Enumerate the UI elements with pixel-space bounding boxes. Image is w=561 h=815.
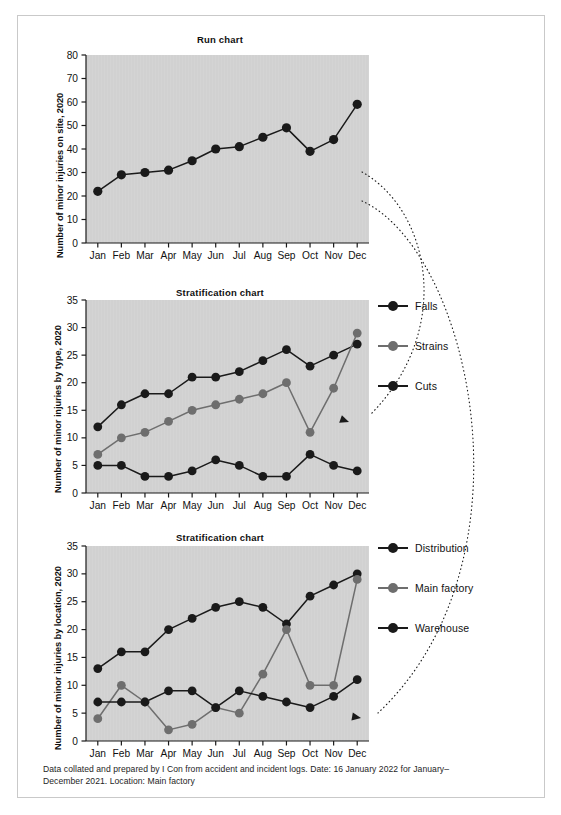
svg-text:20: 20 <box>67 191 79 202</box>
legend-label-warehouse: Warehouse <box>415 622 469 634</box>
svg-text:30: 30 <box>67 568 79 579</box>
svg-text:Jul: Jul <box>233 500 246 511</box>
legend-label-strains: Strains <box>415 340 448 352</box>
svg-text:Sep: Sep <box>277 500 295 511</box>
legend-label-main-factory: Main factory <box>415 582 473 594</box>
legend-label-falls: Falls <box>415 300 438 312</box>
svg-text:Sep: Sep <box>277 748 295 759</box>
svg-text:15: 15 <box>67 405 79 416</box>
chart-run-chart: Run chart Number of minor injuries on si… <box>0 0 400 285</box>
svg-text:70: 70 <box>67 73 79 84</box>
svg-text:0: 0 <box>72 736 78 747</box>
svg-text:Apr: Apr <box>161 500 177 511</box>
svg-text:May: May <box>183 748 203 759</box>
svg-text:Oct: Oct <box>302 500 318 511</box>
svg-text:Sep: Sep <box>277 250 295 261</box>
svg-text:10: 10 <box>67 432 79 443</box>
svg-text:Jun: Jun <box>207 250 223 261</box>
svg-text:Dec: Dec <box>348 500 366 511</box>
svg-text:May: May <box>183 500 203 511</box>
svg-text:Aug: Aug <box>254 748 272 759</box>
plot-area-stratification-by-type: 05101520253035JanFebMarAprMayJunJulAugSe… <box>0 285 400 525</box>
legend-item-warehouse[interactable]: Warehouse <box>378 618 473 638</box>
svg-text:25: 25 <box>67 596 79 607</box>
svg-text:20: 20 <box>67 624 79 635</box>
svg-text:0: 0 <box>72 238 78 249</box>
figure-page: Run chart Number of minor injuries on si… <box>0 0 561 815</box>
svg-text:Aug: Aug <box>254 500 272 511</box>
svg-text:60: 60 <box>67 97 79 108</box>
svg-text:0: 0 <box>72 488 78 499</box>
svg-text:Dec: Dec <box>348 250 366 261</box>
legend-marker-strains <box>378 340 408 352</box>
plot-area-stratification-by-location: 05101520253035JanFebMarAprMayJunJulAugSe… <box>0 530 400 765</box>
svg-text:35: 35 <box>67 541 79 552</box>
legend-stratification-by-type: Falls Strains Cuts <box>378 296 448 416</box>
svg-text:80: 80 <box>67 50 79 61</box>
legend-stratification-by-location: Distribution Main factory Warehouse <box>378 538 473 658</box>
svg-text:Dec: Dec <box>348 748 366 759</box>
svg-text:5: 5 <box>72 708 78 719</box>
svg-text:Mar: Mar <box>136 250 154 261</box>
svg-text:Nov: Nov <box>325 500 344 511</box>
svg-text:50: 50 <box>67 120 79 131</box>
legend-item-strains[interactable]: Strains <box>378 336 448 356</box>
legend-marker-main-factory <box>378 582 408 594</box>
legend-label-distribution: Distribution <box>415 542 469 554</box>
svg-text:25: 25 <box>67 350 79 361</box>
svg-text:Jan: Jan <box>90 500 106 511</box>
svg-text:30: 30 <box>67 167 79 178</box>
svg-text:Oct: Oct <box>302 250 318 261</box>
legend-item-cuts[interactable]: Cuts <box>378 376 448 396</box>
legend-marker-cuts <box>378 380 408 392</box>
svg-text:15: 15 <box>67 652 79 663</box>
svg-text:Jun: Jun <box>207 500 223 511</box>
legend-marker-distribution <box>378 542 408 554</box>
svg-text:Mar: Mar <box>136 748 154 759</box>
svg-text:Nov: Nov <box>325 748 344 759</box>
svg-text:Jul: Jul <box>233 748 246 759</box>
svg-text:30: 30 <box>67 322 79 333</box>
legend-item-falls[interactable]: Falls <box>378 296 448 316</box>
svg-text:Jan: Jan <box>90 250 106 261</box>
svg-text:Feb: Feb <box>113 748 131 759</box>
svg-text:Feb: Feb <box>113 250 131 261</box>
svg-text:5: 5 <box>72 460 78 471</box>
svg-text:Nov: Nov <box>325 250 344 261</box>
svg-text:Feb: Feb <box>113 500 131 511</box>
caption-line-1: Data collated and prepared by I Con from… <box>43 764 411 774</box>
legend-marker-falls <box>378 300 408 312</box>
plot-area-run-chart: 01020304050607080JanFebMarAprMayJunJulAu… <box>0 0 400 285</box>
svg-text:35: 35 <box>67 295 79 306</box>
legend-marker-warehouse <box>378 622 408 634</box>
svg-text:Oct: Oct <box>302 748 318 759</box>
svg-text:20: 20 <box>67 377 79 388</box>
svg-text:Jul: Jul <box>233 250 246 261</box>
chart-stratification-by-location: Stratification chart Number of minor inj… <box>0 530 400 765</box>
legend-item-distribution[interactable]: Distribution <box>378 538 473 558</box>
svg-text:10: 10 <box>67 214 79 225</box>
svg-text:Jan: Jan <box>90 748 106 759</box>
svg-text:Apr: Apr <box>161 748 177 759</box>
chart-stratification-by-type: Stratification chart Number of minor inj… <box>0 285 400 525</box>
svg-text:Apr: Apr <box>161 250 177 261</box>
svg-text:Aug: Aug <box>254 250 272 261</box>
legend-item-main-factory[interactable]: Main factory <box>378 578 473 598</box>
svg-text:Jun: Jun <box>207 748 223 759</box>
svg-text:40: 40 <box>67 144 79 155</box>
svg-text:Mar: Mar <box>136 500 154 511</box>
svg-text:10: 10 <box>67 680 79 691</box>
legend-label-cuts: Cuts <box>415 380 437 392</box>
svg-text:May: May <box>183 250 203 261</box>
figure-caption: Data collated and prepared by I Con from… <box>43 763 463 788</box>
